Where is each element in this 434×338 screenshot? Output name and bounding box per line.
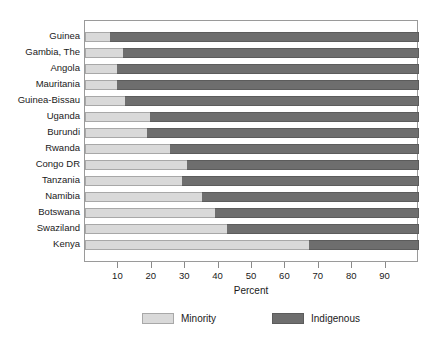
legend-label-minority: Minority <box>181 313 216 324</box>
y-axis-tick-label: Namibia <box>2 191 80 201</box>
x-axis-tick-label: 50 <box>246 270 257 281</box>
bar-row <box>85 128 417 138</box>
y-axis-category-labels: GuineaGambia, TheAngolaMauritaniaGuinea-… <box>0 20 80 262</box>
bar-segment-minority <box>85 176 182 186</box>
x-axis-tick-mark <box>218 262 219 268</box>
bar-row <box>85 144 417 154</box>
chart-legend: Minority Indigenous <box>84 308 418 328</box>
bar-row <box>85 224 417 234</box>
bar-row <box>85 96 417 106</box>
x-axis-tick-label: 70 <box>313 270 324 281</box>
x-axis-title: Percent <box>84 285 418 296</box>
y-axis-tick-label: Tanzania <box>2 175 80 185</box>
legend-item-indigenous: Indigenous <box>272 313 360 324</box>
bar-segment-minority <box>85 128 147 138</box>
x-axis-tick-label: 90 <box>379 270 390 281</box>
bar-segment-indigenous <box>309 240 419 250</box>
bar-segment-minority <box>85 48 123 58</box>
y-axis-tick-label: Rwanda <box>2 143 80 153</box>
x-axis-tick-mark <box>385 262 386 268</box>
y-axis-tick-label: Uganda <box>2 111 80 121</box>
bar-row <box>85 32 417 42</box>
x-axis-tick-label: 80 <box>346 270 357 281</box>
y-axis-tick-label: Guinea-Bissau <box>2 95 80 105</box>
legend-swatch-minority <box>142 313 174 324</box>
x-axis-tick-label: 40 <box>212 270 223 281</box>
x-axis-tick-label: 60 <box>279 270 290 281</box>
bar-segment-minority <box>85 32 110 42</box>
bar-segment-minority <box>85 240 309 250</box>
bar-segment-indigenous <box>117 80 419 90</box>
bar-segment-indigenous <box>110 32 419 42</box>
bar-segment-indigenous <box>187 160 419 170</box>
bar-segment-indigenous <box>202 192 419 202</box>
bar-row <box>85 176 417 186</box>
bar-segment-indigenous <box>215 208 419 218</box>
bar-row <box>85 80 417 90</box>
bar-segment-indigenous <box>147 128 419 138</box>
x-axis-tick-mark <box>151 262 152 268</box>
y-axis-tick-label: Angola <box>2 63 80 73</box>
bar-row <box>85 208 417 218</box>
chart-figure: GuineaGambia, TheAngolaMauritaniaGuinea-… <box>0 0 434 338</box>
bar-row <box>85 48 417 58</box>
bar-row <box>85 160 417 170</box>
bar-segment-indigenous <box>182 176 419 186</box>
bar-row <box>85 240 417 250</box>
y-axis-tick-label: Congo DR <box>2 159 80 169</box>
x-axis-tick-mark <box>117 262 118 268</box>
bar-segment-indigenous <box>170 144 419 154</box>
x-axis-tick-mark <box>284 262 285 268</box>
x-axis-tick-label: 20 <box>146 270 157 281</box>
bar-segment-indigenous <box>125 96 419 106</box>
legend-label-indigenous: Indigenous <box>311 313 360 324</box>
bar-segment-minority <box>85 144 170 154</box>
x-axis-tick-label: 10 <box>112 270 123 281</box>
bar-segment-minority <box>85 80 117 90</box>
x-axis-tick-mark <box>351 262 352 268</box>
bar-segment-minority <box>85 96 125 106</box>
legend-swatch-indigenous <box>272 313 304 324</box>
bar-row <box>85 64 417 74</box>
bar-segment-minority <box>85 192 202 202</box>
bar-row <box>85 112 417 122</box>
x-axis-tick-mark <box>318 262 319 268</box>
bar-segment-indigenous <box>123 48 419 58</box>
x-axis-tick-label: 30 <box>179 270 190 281</box>
y-axis-tick-label: Mauritania <box>2 79 80 89</box>
plot-area <box>84 20 418 262</box>
bar-segment-minority <box>85 64 117 74</box>
bar-segment-indigenous <box>227 224 419 234</box>
x-axis-tick-mark <box>184 262 185 268</box>
x-axis-tick-mark <box>251 262 252 268</box>
bar-segment-minority <box>85 112 150 122</box>
y-axis-tick-label: Swaziland <box>2 223 80 233</box>
bar-segment-indigenous <box>150 112 419 122</box>
bar-segment-minority <box>85 208 215 218</box>
y-axis-tick-label: Burundi <box>2 127 80 137</box>
legend-item-minority: Minority <box>142 313 216 324</box>
y-axis-tick-label: Botswana <box>2 207 80 217</box>
bar-segment-minority <box>85 224 227 234</box>
y-axis-tick-label: Kenya <box>2 239 80 249</box>
y-axis-tick-label: Gambia, The <box>2 47 80 57</box>
y-axis-tick-label: Guinea <box>2 31 80 41</box>
bars-layer <box>85 21 417 261</box>
bar-segment-minority <box>85 160 187 170</box>
bar-row <box>85 192 417 202</box>
bar-segment-indigenous <box>117 64 419 74</box>
